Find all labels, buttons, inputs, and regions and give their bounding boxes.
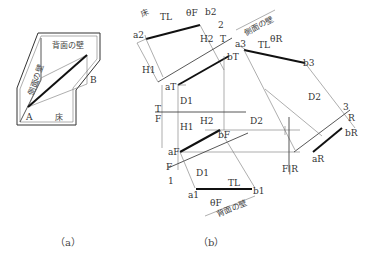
label-at: aT bbox=[165, 82, 176, 92]
label-d1-top: D1 bbox=[180, 96, 193, 106]
label-fold-2: 2 bbox=[218, 20, 224, 30]
label-h1-front: H1 bbox=[180, 122, 194, 132]
label-point-a: A bbox=[25, 112, 33, 122]
line-at-bt bbox=[178, 56, 229, 85]
caption-a: （a） bbox=[55, 237, 81, 248]
label-h2-front: H2 bbox=[200, 116, 214, 126]
label-fold-2-t: T bbox=[220, 34, 226, 44]
label-a2: a2 bbox=[133, 30, 144, 40]
label-theta-r: θR bbox=[270, 34, 282, 44]
label-tl-top: TL bbox=[160, 12, 172, 22]
figure-canvas: 背面の壁 側面の壁 床 A B （a） bbox=[0, 0, 369, 257]
fold-line-1 bbox=[168, 133, 248, 168]
label-tl-side: TL bbox=[258, 40, 270, 50]
label-fold-3: 3 bbox=[343, 102, 349, 112]
line-a2-b2 bbox=[146, 25, 200, 39]
label-b1: b1 bbox=[253, 186, 265, 196]
label-d2-side: D2 bbox=[308, 92, 321, 102]
label-b2: b2 bbox=[205, 7, 217, 17]
figure-a: 背面の壁 側面の壁 床 A B bbox=[17, 33, 100, 125]
caption-b: （b） bbox=[198, 237, 224, 248]
label-fold-f: F bbox=[155, 114, 161, 124]
label-floor-b: 床 bbox=[139, 7, 150, 19]
label-br: bR bbox=[345, 128, 358, 138]
label-a3: a3 bbox=[235, 39, 246, 49]
label-h1-top: H1 bbox=[142, 65, 156, 75]
label-floor: 床 bbox=[55, 112, 63, 122]
label-b3: b3 bbox=[303, 58, 315, 68]
line-ar-br bbox=[313, 128, 342, 152]
label-point-b: B bbox=[90, 75, 97, 85]
label-bf: bF bbox=[218, 130, 230, 140]
label-theta-f-top: θF bbox=[186, 8, 198, 18]
label-af: aF bbox=[168, 147, 180, 157]
label-ar: aR bbox=[312, 154, 324, 164]
label-tl-bottom: TL bbox=[228, 178, 240, 188]
label-theta-f-bottom: θF bbox=[210, 198, 222, 208]
label-fold-t: T bbox=[155, 104, 161, 114]
line-a3-b3 bbox=[244, 50, 305, 63]
label-bt: bT bbox=[227, 52, 239, 62]
label-d2-front: D2 bbox=[250, 116, 263, 126]
label-a1: a1 bbox=[188, 190, 199, 200]
label-fold-3-r: R bbox=[348, 113, 355, 123]
line-af-bf bbox=[180, 130, 220, 152]
descriptive-geometry-figure: 背面の壁 側面の壁 床 A B （a） bbox=[0, 0, 369, 257]
label-fold-1-f: F bbox=[166, 162, 172, 172]
label-d1-front: D1 bbox=[196, 168, 209, 178]
label-h2-top: H2 bbox=[200, 34, 214, 44]
label-fold-fr: F|R bbox=[282, 164, 298, 175]
label-back-wall: 背面の壁 bbox=[52, 40, 84, 50]
label-fold-1: 1 bbox=[168, 176, 174, 186]
